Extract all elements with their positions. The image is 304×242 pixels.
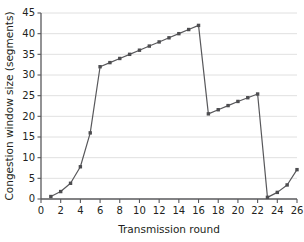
- x-tick-label: 10: [133, 205, 146, 216]
- data-point-marker: [157, 40, 160, 43]
- y-tick-label: 25: [22, 90, 35, 101]
- data-point-marker: [118, 57, 121, 60]
- y-tick-label: 15: [22, 131, 35, 142]
- y-tick-label: 40: [22, 28, 35, 39]
- data-point-marker: [49, 195, 52, 198]
- y-tick-label: 35: [22, 49, 35, 60]
- series-line-congestion-window: [51, 25, 297, 197]
- data-point-marker: [69, 182, 72, 185]
- x-tick-label: 18: [212, 205, 225, 216]
- x-tick-label: 0: [38, 205, 44, 216]
- x-tick-label: 12: [153, 205, 166, 216]
- data-point-marker: [197, 24, 200, 27]
- x-tick-label: 6: [97, 205, 103, 216]
- data-point-marker: [128, 53, 131, 56]
- chart-figure: 051015202530354045 024681012141618202224…: [0, 0, 304, 242]
- data-point-marker: [108, 61, 111, 64]
- y-tick-label: 20: [22, 111, 35, 122]
- data-point-marker: [266, 196, 269, 199]
- x-tick-label: 20: [232, 205, 245, 216]
- x-tick-label: 26: [291, 205, 304, 216]
- congestion-window-chart: 051015202530354045 024681012141618202224…: [0, 0, 304, 242]
- data-point-marker: [295, 168, 298, 171]
- data-point-marker: [207, 112, 210, 115]
- x-tick-label: 22: [251, 205, 264, 216]
- data-point-marker: [276, 191, 279, 194]
- data-point-marker: [256, 92, 259, 95]
- data-point-marker: [177, 32, 180, 35]
- x-tick-label: 4: [77, 205, 83, 216]
- y-tick-label: 45: [22, 7, 35, 18]
- data-point-marker: [246, 96, 249, 99]
- y-axis-label: Congestion window size (segments): [3, 11, 15, 200]
- series-markers-group: [49, 24, 299, 199]
- y-axis-ticks-group: 051015202530354045: [22, 7, 41, 204]
- x-tick-label: 14: [172, 205, 185, 216]
- data-point-marker: [187, 28, 190, 31]
- data-point-marker: [226, 104, 229, 107]
- x-tick-label: 8: [117, 205, 123, 216]
- data-point-marker: [138, 49, 141, 52]
- x-axis-ticks-group: 02468101214161820222426: [38, 199, 304, 216]
- data-point-marker: [89, 131, 92, 134]
- data-point-marker: [59, 190, 62, 193]
- data-point-marker: [285, 183, 288, 186]
- y-tick-label: 0: [29, 193, 35, 204]
- x-axis-label: Transmission round: [117, 223, 220, 235]
- x-tick-label: 16: [192, 205, 205, 216]
- data-point-marker: [98, 65, 101, 68]
- data-point-marker: [167, 36, 170, 39]
- data-point-marker: [79, 165, 82, 168]
- data-point-marker: [217, 108, 220, 111]
- y-tick-label: 5: [29, 173, 35, 184]
- y-tick-label: 30: [22, 69, 35, 80]
- data-point-marker: [236, 100, 239, 103]
- data-point-marker: [148, 44, 151, 47]
- x-tick-label: 2: [58, 205, 64, 216]
- y-tick-label: 10: [22, 152, 35, 163]
- x-tick-label: 24: [271, 205, 284, 216]
